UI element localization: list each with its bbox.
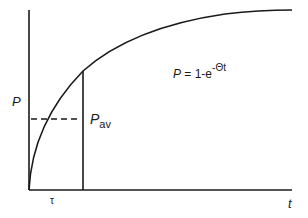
formula-lhs: P [173,67,181,81]
p-av-main: P [90,111,99,127]
y-axis-label: P [12,95,21,108]
x-axis-label: t [288,197,292,210]
formula-equals: = 1-e [181,67,212,81]
formula-label: P = 1-e-Θt [173,68,226,80]
saturation-curve [29,10,292,190]
formula-exponent: -Θt [212,62,226,73]
diagram-canvas [0,0,308,218]
tau-label: τ [50,196,54,206]
p-av-label: Pav [90,112,111,126]
p-av-subscript: av [99,118,111,130]
